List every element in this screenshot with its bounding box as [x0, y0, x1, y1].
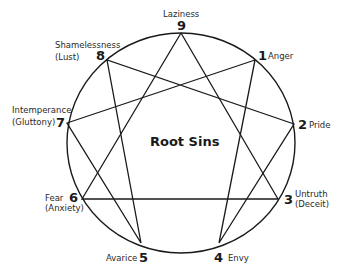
point-7-sublabel: (Gluttony): [12, 117, 55, 127]
point-2-number: 2: [298, 118, 307, 131]
point-5-number: 5: [139, 251, 148, 264]
point-6-label: Fear: [45, 193, 63, 203]
diagram-title: Root Sins: [150, 134, 219, 149]
triangle-lines: [82, 33, 278, 199]
point-2-label: Pride: [309, 120, 330, 130]
point-7-number: 7: [56, 116, 65, 129]
point-8-number: 8: [96, 49, 105, 62]
point-3-sublabel: (Deceit): [295, 199, 329, 209]
point-9-number: 9: [177, 19, 186, 32]
point-3-label: Untruth: [295, 189, 328, 199]
point-8-label: Shamelessness: [55, 40, 120, 50]
point-5-label: Avarice: [106, 253, 137, 263]
point-4-number: 4: [214, 251, 223, 264]
point-8-sublabel: (Lust): [55, 52, 79, 62]
point-1-label: Anger: [268, 51, 293, 61]
point-6-sublabel: (Anxiety): [45, 203, 84, 213]
point-7-label: Intemperance: [12, 105, 71, 115]
point-6-number: 6: [69, 191, 78, 204]
point-1-number: 1: [258, 49, 267, 62]
hexad-lines: [67, 60, 294, 243]
point-3-number: 3: [284, 193, 293, 206]
point-4-label: Envy: [228, 253, 249, 263]
